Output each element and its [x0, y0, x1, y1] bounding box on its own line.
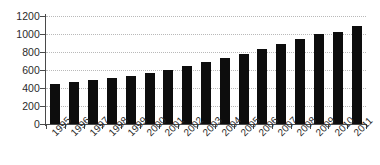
bar — [352, 26, 362, 124]
bar — [239, 54, 249, 124]
bar — [69, 82, 79, 124]
bar — [145, 73, 155, 124]
bar — [257, 49, 267, 124]
y-tick-label: 200 — [0, 101, 40, 112]
plot-area — [46, 16, 366, 124]
bar-chart-figure: 020040060080010001200 199519961997199819… — [0, 0, 380, 165]
bar — [220, 58, 230, 124]
bar — [295, 39, 305, 124]
bar — [314, 34, 324, 124]
y-tick-mark — [40, 16, 45, 17]
y-tick-mark — [40, 70, 45, 71]
y-tick-label: 0 — [0, 119, 40, 130]
bar — [50, 84, 60, 125]
y-tick-label: 400 — [0, 83, 40, 94]
bar — [88, 80, 98, 124]
y-tick-label: 800 — [0, 47, 40, 58]
bar — [276, 44, 286, 124]
y-axis-line — [45, 14, 46, 126]
bar — [107, 78, 117, 124]
bar — [126, 76, 136, 124]
y-tick-label: 600 — [0, 65, 40, 76]
y-tick-mark — [40, 106, 45, 107]
bar — [201, 62, 211, 124]
y-tick-mark — [40, 52, 45, 53]
y-tick-mark — [40, 34, 45, 35]
x-tick-mark — [46, 124, 47, 129]
gridline — [46, 16, 366, 17]
y-tick-label: 1000 — [0, 29, 40, 40]
bar — [182, 66, 192, 124]
bar — [333, 32, 343, 124]
bar — [163, 70, 173, 124]
y-tick-mark — [40, 88, 45, 89]
y-tick-label: 1200 — [0, 11, 40, 22]
y-tick-mark — [40, 124, 45, 125]
